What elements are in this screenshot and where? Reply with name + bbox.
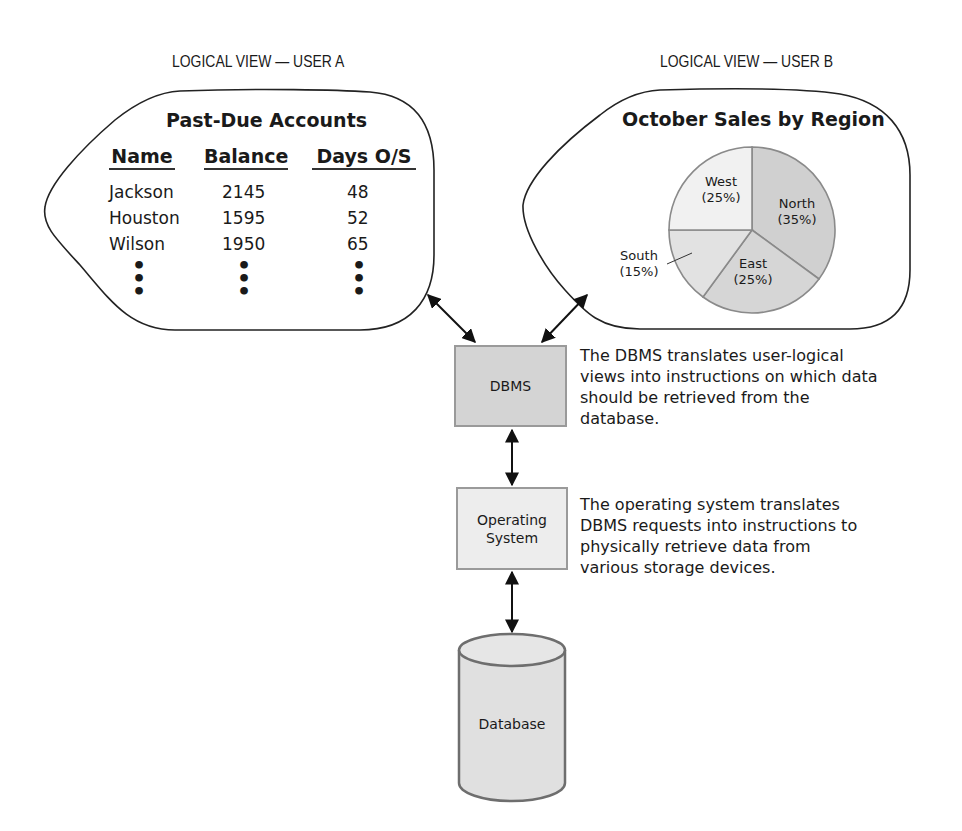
- os-description: The operating system translates DBMS req…: [580, 494, 870, 578]
- continuation-dots-balance: •••: [234, 259, 254, 298]
- user-a-view-header: LOGICAL VIEW — USER A: [172, 52, 344, 72]
- column-header-days-os: Days O/S: [312, 145, 416, 170]
- database-label: Database: [459, 716, 565, 732]
- arrow-user-b-dbms: [542, 295, 587, 342]
- pie-label-north: North (35%): [772, 196, 822, 228]
- cell-balance: 2145: [222, 179, 265, 205]
- sales-pie-chart: [667, 147, 835, 313]
- chart-title: October Sales by Region: [622, 108, 885, 130]
- continuation-dots-name: •••: [129, 259, 149, 298]
- os-label-line1: Operating: [477, 511, 547, 529]
- user-b-view-header: LOGICAL VIEW — USER B: [660, 52, 833, 72]
- cell-name: Jackson: [109, 179, 174, 205]
- past-due-table-title: Past-Due Accounts: [166, 109, 367, 131]
- operating-system-box: Operating System: [456, 487, 568, 570]
- continuation-dots-days: •••: [349, 259, 369, 298]
- cell-balance: 1595: [222, 205, 265, 231]
- dbms-label: DBMS: [490, 377, 531, 395]
- os-label-line2: System: [477, 529, 547, 547]
- cell-days: 52: [347, 205, 369, 231]
- arrow-user-a-dbms: [428, 295, 475, 342]
- column-header-balance: Balance: [204, 145, 288, 170]
- column-header-name: Name: [109, 145, 175, 170]
- pie-label-south: South (15%): [614, 248, 664, 280]
- cell-name: Houston: [109, 205, 180, 231]
- pie-label-west: West (25%): [696, 174, 746, 206]
- dbms-description: The DBMS translates user-logical views i…: [580, 345, 880, 429]
- cell-days: 48: [347, 179, 369, 205]
- pie-label-east: East (25%): [728, 256, 778, 288]
- dbms-box: DBMS: [454, 345, 567, 427]
